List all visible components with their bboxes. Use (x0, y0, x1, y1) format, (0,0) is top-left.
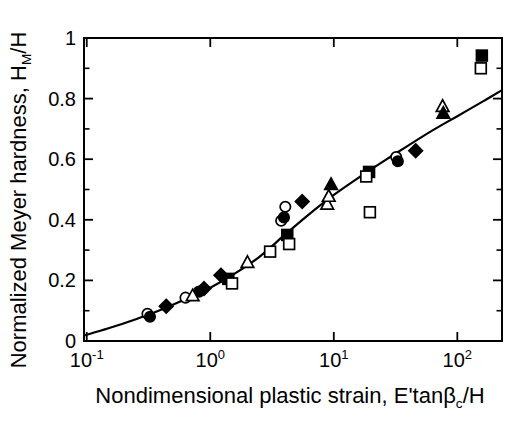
x-tick-label-10e0: 100 (196, 347, 225, 372)
axis-box (84, 38, 502, 341)
y-tick-label-0.2: 0.2 (48, 269, 76, 292)
marker-filled-circle (145, 312, 155, 322)
marker-filled-square (476, 50, 487, 61)
x-tick-label-10e1: 101 (319, 347, 348, 372)
x-tick-label-10e2: 102 (443, 347, 472, 372)
marker-open-square (364, 207, 375, 218)
y-axis-label: Normalized Meyer hardness, HM/H (6, 32, 34, 369)
marker-filled-diamond (295, 195, 309, 209)
y-axis-label-suffix: /H (6, 32, 31, 54)
y-tick-label-0.4: 0.4 (48, 208, 76, 231)
marker-open-square (284, 239, 295, 250)
y-tick-label-0: 0 (65, 330, 76, 353)
hardness-strain-chart: Normalized Meyer hardness, HM/H Nondimen… (0, 0, 523, 423)
y-axis-label-sub: M (19, 54, 34, 65)
marker-filled-triangle (325, 178, 338, 190)
marker-filled-diamond (159, 299, 173, 313)
marker-open-square (265, 246, 276, 257)
y-axis-label-main: Normalized Meyer hardness, H (6, 65, 31, 368)
marker-open-square (361, 171, 372, 182)
y-tick-label-0.8: 0.8 (48, 87, 76, 110)
marker-open-square (475, 63, 486, 74)
y-tick-label-0.6: 0.6 (48, 148, 76, 171)
x-axis-label-main: Nondimensional plastic strain, E'tanβ (95, 383, 455, 408)
y-tick-label-1: 1 (65, 27, 76, 50)
marker-filled-circle (279, 212, 289, 222)
marker-open-circle (280, 202, 290, 212)
marker-filled-diamond (409, 144, 423, 158)
x-axis-label: Nondimensional plastic strain, E'tanβc/H (95, 383, 484, 411)
model-curve (84, 90, 502, 335)
marker-filled-circle (393, 156, 403, 166)
marker-open-square (227, 278, 238, 289)
x-axis-label-suffix: /H (463, 383, 485, 408)
